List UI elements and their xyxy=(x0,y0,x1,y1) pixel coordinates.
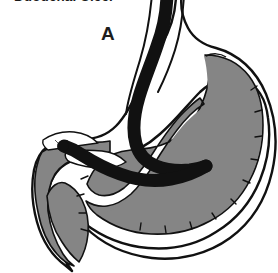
figure-container: Duodenal Ulcer xyxy=(0,0,278,273)
tube-tip xyxy=(58,141,69,152)
panel-label-a: A xyxy=(101,24,115,43)
stomach-anatomy-illustration xyxy=(0,0,278,273)
